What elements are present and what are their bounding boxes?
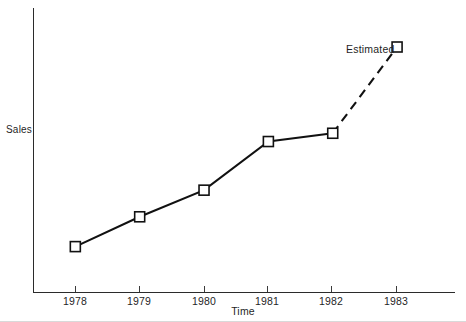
x-axis-ticks xyxy=(76,286,397,292)
series-line-estimated xyxy=(333,47,397,133)
data-point-1981 xyxy=(263,137,273,147)
chart-canvas xyxy=(0,0,466,322)
data-point-markers xyxy=(70,42,402,252)
y-axis-label: Sales xyxy=(6,124,32,135)
data-point-1979 xyxy=(135,212,145,222)
x-tick-label-1983: 1983 xyxy=(374,296,418,307)
sales-line-chart: Sales Time Estimated 1978 1979 1980 1981… xyxy=(0,0,466,322)
data-point-1982 xyxy=(328,128,338,138)
x-axis-label: Time xyxy=(221,306,265,317)
data-point-1980 xyxy=(199,185,209,195)
x-tick-label-1980: 1980 xyxy=(182,296,226,307)
x-tick-label-1978: 1978 xyxy=(53,296,97,307)
x-tick-label-1982: 1982 xyxy=(309,296,353,307)
x-tick-label-1979: 1979 xyxy=(117,296,161,307)
x-tick-label-1981: 1981 xyxy=(245,296,289,307)
estimated-annotation-label: Estimated xyxy=(346,44,395,55)
data-point-1978 xyxy=(70,242,80,252)
